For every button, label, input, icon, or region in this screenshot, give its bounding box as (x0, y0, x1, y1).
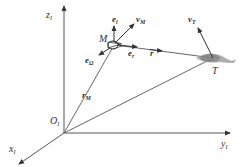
v-M-vector (115, 24, 134, 43)
y-axis-label: yI (220, 138, 228, 150)
x-axis-label: xI (8, 143, 16, 155)
T-fish (196, 53, 236, 63)
r-label: r (150, 48, 154, 58)
x-axis (19, 133, 64, 164)
z-axis-label: zI (45, 9, 53, 21)
e-omega-label: eΩ (85, 55, 94, 66)
r-M-label: rM (82, 90, 92, 101)
e-r-label: er (128, 48, 135, 59)
e-l-label: el (112, 14, 118, 25)
v-T-vector (198, 28, 213, 58)
v-T-label: vT (188, 14, 196, 25)
origin-label: OI (50, 115, 60, 127)
v-M-label: vM (136, 14, 146, 25)
e-omega-vector (99, 48, 110, 55)
coordinate-diagram: zI yI xI OI M T el vM eΩ er r rM vT (0, 0, 241, 167)
T-label: T (212, 65, 219, 76)
M-label: M (98, 33, 108, 44)
